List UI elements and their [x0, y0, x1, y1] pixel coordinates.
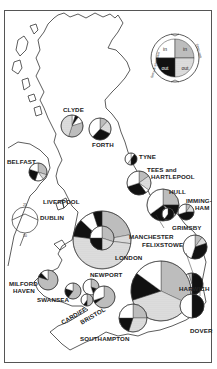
pie-manchester [90, 226, 114, 250]
key-in-right: in [183, 46, 187, 52]
label-southampton: SOUTHAMPTON [80, 336, 129, 343]
label-harwich: HARWICH [179, 286, 210, 293]
pie-dover [180, 294, 204, 318]
pie-tees-and-hartlepool [127, 171, 151, 195]
pie-clyde [61, 115, 83, 137]
label-newport: NEWPORT [90, 272, 122, 279]
label-manchester: MANCHESTER [129, 234, 174, 241]
label-london: LONDON [115, 255, 142, 262]
pie-grimsby [162, 208, 174, 220]
scale-label-top: 25 [23, 203, 27, 207]
key-in-left: in [163, 46, 167, 52]
label-belfast: BELFAST [7, 159, 36, 166]
label-tees-2: HARTLEPOOL [151, 174, 195, 181]
label-forth: FORTH [92, 142, 114, 149]
pie-cardiff [81, 294, 93, 306]
scale-label-bottom: 50 [23, 234, 27, 238]
pie-bristol [93, 286, 115, 308]
label-hull: HULL [169, 189, 186, 196]
pie-southampton [119, 304, 147, 332]
pie-milford-haven [38, 270, 58, 290]
label-felixstowe: FELIXSTOWE [142, 242, 183, 249]
label-clyde: CLYDE [63, 107, 84, 114]
pie-tyne [125, 153, 137, 165]
label-imming-2: HAM [195, 205, 209, 212]
label-swansea: SWANSEA [37, 297, 69, 304]
key-out-right: out [182, 65, 190, 71]
label-tyne: TYNE [139, 154, 156, 161]
label-liverpool: LIVERPOOL [43, 199, 80, 206]
label-dover: DOVER [190, 328, 213, 335]
pie-forth [89, 118, 111, 140]
label-grimsby: GRIMSBY [172, 225, 202, 232]
pie-belfast [29, 163, 47, 181]
key-out-left: out [162, 65, 170, 71]
pie-immingham [178, 204, 194, 220]
uk-ports-map: 25 50 in in out out ferry & short sea de… [0, 0, 217, 369]
label-dublin: DUBLIN [40, 215, 64, 222]
label-milford-2: HAVEN [13, 288, 35, 295]
